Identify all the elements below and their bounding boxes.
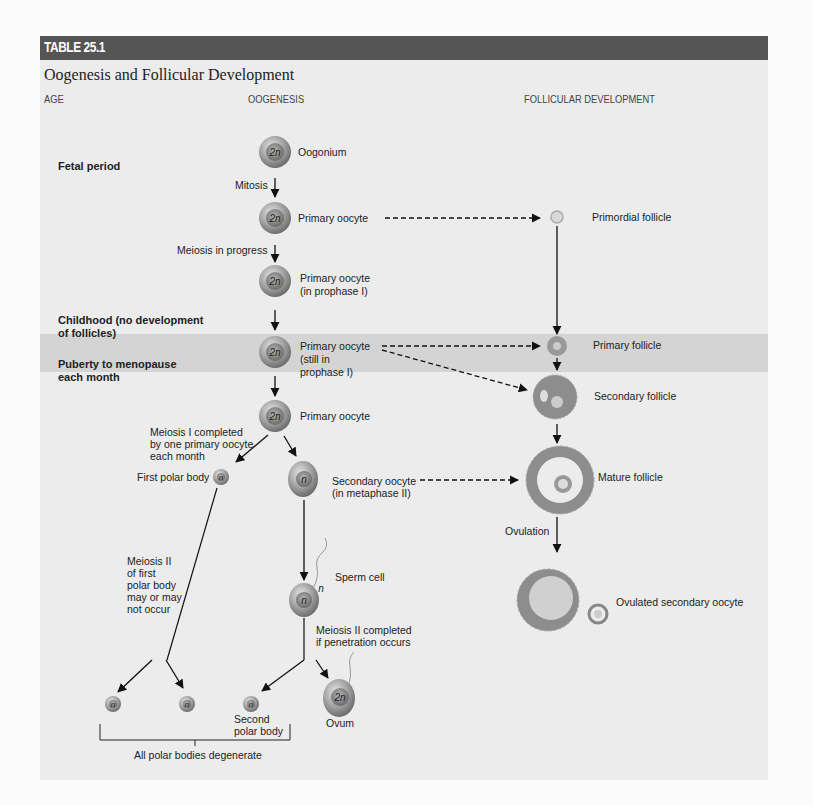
- label-primary-follicle: Primary follicle: [593, 339, 661, 352]
- label-secondary-follicle: Secondary follicle: [594, 390, 676, 403]
- age-childhood-1: Childhood (no development: [58, 314, 203, 327]
- ploidy-label: 2n: [268, 347, 281, 358]
- label-mature-follicle: Mature follicle: [598, 471, 663, 484]
- label-primary-oocyte-still: Primary oocyte: [300, 340, 370, 353]
- label-meiosis2-pb-5: not occur: [127, 603, 170, 616]
- ploidy-label: n: [301, 595, 307, 606]
- label-sperm-cell: Sperm cell: [335, 571, 385, 584]
- label-second-polar-body-2: polar body: [234, 725, 283, 738]
- branch-lines: [167, 488, 304, 660]
- label-meiosis-in-progress: Meiosis in progress: [177, 244, 267, 257]
- ploidy-label: n: [318, 583, 324, 594]
- label-primary-oocyte-still-2: (still in: [300, 353, 330, 366]
- label-degenerate: All polar bodies degenerate: [134, 749, 262, 762]
- ploidy-label: 2n: [268, 147, 281, 158]
- label-primary-oocyte-prophase: Primary oocyte: [300, 272, 370, 285]
- label-primary-oocyte: Primary oocyte: [298, 212, 368, 225]
- ploidy-label: n: [219, 473, 224, 482]
- dashed-arrows: [382, 218, 540, 480]
- age-childhood-2: of follicles): [58, 327, 116, 340]
- label-primary-oocyte-2: Primary oocyte: [300, 410, 370, 423]
- label-first-polar-body: First polar body: [137, 471, 209, 484]
- label-primary-oocyte-still-3: prophase I): [300, 366, 353, 379]
- ploidy-label: 2n: [268, 213, 281, 224]
- age-puberty-1: Puberty to menopause: [58, 358, 177, 371]
- label-oogonium: Oogonium: [298, 146, 346, 159]
- label-primary-oocyte-prophase-2: (in prophase I): [300, 285, 368, 298]
- ploidy-label: n: [301, 474, 307, 485]
- primordial-follicle-icon: [551, 211, 563, 223]
- label-mitosis: Mitosis: [235, 179, 268, 192]
- label-secondary-oocyte-2: (in metaphase II): [332, 487, 411, 500]
- sperm-tail-icon-2: [348, 652, 354, 688]
- age-puberty-2: each month: [58, 371, 120, 384]
- secondary-follicle-icon: [533, 375, 577, 419]
- oogenesis-diagram: 2n 2n 2n 2n 2n n n n n n n n 2n: [0, 0, 813, 805]
- label-ovulation: Ovulation: [505, 525, 549, 538]
- mature-follicle-icon: [526, 446, 594, 514]
- primary-follicle-icon: [547, 336, 567, 356]
- ploidy-label: 2n: [333, 692, 346, 703]
- ploidy-label: 2n: [268, 276, 281, 287]
- ploidy-label: n: [185, 700, 190, 709]
- ploidy-label: 2n: [268, 411, 281, 422]
- ovulated-follicle-icon: [517, 569, 607, 631]
- ploidy-label: n: [249, 700, 254, 709]
- label-primordial-follicle: Primordial follicle: [592, 211, 671, 224]
- sperm-tail-icon: [313, 538, 327, 588]
- ploidy-label: n: [111, 700, 116, 709]
- label-meiosis2-done-2: if penetration occurs: [316, 636, 411, 649]
- label-ovum: Ovum: [326, 717, 354, 730]
- label-ovulated-oocyte: Ovulated secondary oocyte: [616, 596, 743, 609]
- label-meiosis1-3: each month: [150, 450, 205, 463]
- age-fetal: Fetal period: [58, 160, 120, 173]
